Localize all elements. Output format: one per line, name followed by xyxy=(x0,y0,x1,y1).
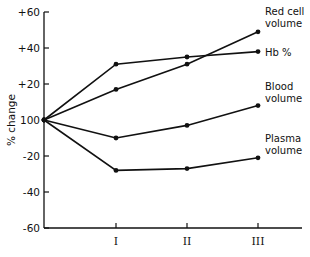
series-label: Plasma xyxy=(265,133,301,144)
data-point xyxy=(256,155,261,160)
series-label: Hb % xyxy=(265,47,292,58)
series-label: Red cell xyxy=(265,6,304,17)
data-point xyxy=(185,55,190,60)
series-line xyxy=(44,52,258,120)
data-point xyxy=(42,118,47,123)
y-tick-label: +20 xyxy=(18,78,40,90)
series-lines xyxy=(42,29,261,172)
y-axis-label: % change xyxy=(5,94,17,146)
data-point xyxy=(185,123,190,128)
y-tick-label: 100 xyxy=(20,114,40,126)
data-point xyxy=(114,87,119,92)
data-point xyxy=(114,62,119,67)
series-label: volume xyxy=(265,93,302,104)
x-tick-label: II xyxy=(183,235,192,248)
data-point xyxy=(185,166,190,171)
data-point xyxy=(114,136,119,141)
data-point xyxy=(256,49,261,54)
axes: +60+40+20100-20-40-60IIIIII% change xyxy=(5,6,302,248)
y-tick-label: +40 xyxy=(18,42,40,54)
x-tick-label: III xyxy=(251,235,264,248)
y-tick-label: +60 xyxy=(18,6,40,18)
series-label: volume xyxy=(265,145,302,156)
series-line xyxy=(44,32,258,120)
data-point xyxy=(185,62,190,67)
line-chart: +60+40+20100-20-40-60IIIIII% change Red … xyxy=(0,0,310,257)
y-tick-label: -60 xyxy=(23,222,40,234)
data-point xyxy=(114,168,119,173)
data-point xyxy=(256,103,261,108)
y-tick-label: -20 xyxy=(23,150,40,162)
series-labels: Red cellvolumeHb %BloodvolumePlasmavolum… xyxy=(265,6,304,156)
data-point xyxy=(256,29,261,34)
y-tick-label: -40 xyxy=(23,186,40,198)
x-tick-label: I xyxy=(114,235,118,248)
series-label: Blood xyxy=(265,81,293,92)
series-line xyxy=(44,106,258,138)
series-label: volume xyxy=(265,18,302,29)
